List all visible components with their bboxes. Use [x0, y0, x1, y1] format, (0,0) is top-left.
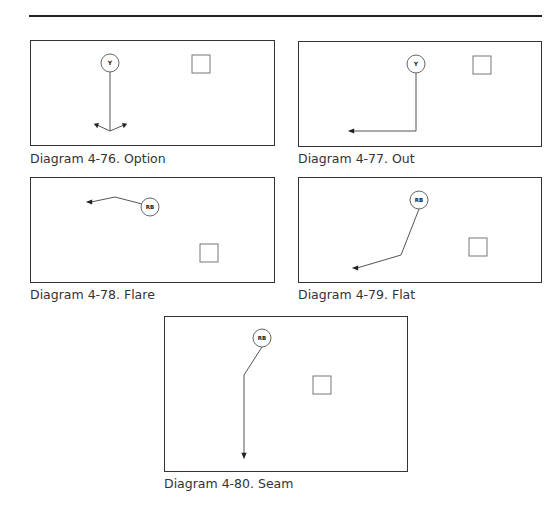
route-drawing: RB: [165, 317, 409, 473]
route-drawing: Y: [31, 41, 276, 147]
diagram-flat: RB: [298, 177, 542, 283]
route-branch-line: [97, 125, 110, 131]
page-top-rule: [29, 15, 542, 17]
route-line: [357, 209, 419, 268]
diagram-caption: Diagram 4-77. Out: [298, 151, 415, 166]
player-marker: RB: [141, 198, 159, 216]
diagram-caption: Diagram 4-79. Flat: [298, 287, 415, 302]
route-branch-line: [110, 125, 124, 131]
defender-square-icon: [200, 244, 218, 262]
player-label: Y: [107, 59, 113, 66]
diagram-caption: Diagram 4-80. Seam: [164, 476, 293, 491]
route-line: [244, 347, 262, 453]
diagram-caption: Diagram 4-76. Option: [30, 151, 166, 166]
defender-square-icon: [192, 55, 210, 73]
route-arrowhead-icon: [86, 199, 92, 204]
route-arrowhead-icon: [348, 128, 354, 133]
player-marker: Y: [101, 54, 119, 72]
defender-square-icon: [469, 238, 487, 256]
defender-square-icon: [473, 56, 491, 74]
defender-square-icon: [313, 376, 331, 394]
diagram-option: Y: [30, 40, 275, 146]
diagram-out: Y: [298, 41, 542, 147]
player-label: RB: [258, 335, 266, 341]
route-line: [353, 73, 416, 131]
route-drawing: RB: [299, 178, 543, 284]
diagram-seam: RB: [164, 316, 408, 472]
player-marker: Y: [407, 55, 425, 73]
player-marker: RB: [410, 191, 428, 209]
player-marker: RB: [253, 329, 271, 347]
route-arrowhead-icon: [241, 453, 246, 459]
route-drawing: RB: [31, 178, 276, 284]
player-label: RB: [415, 197, 423, 203]
route-line: [91, 197, 142, 204]
diagram-caption: Diagram 4-78. Flare: [30, 287, 155, 302]
route-arrowhead-icon: [352, 265, 358, 270]
diagram-flare: RB: [30, 177, 275, 283]
route-drawing: Y: [299, 42, 543, 148]
player-label: RB: [146, 204, 154, 210]
player-label: Y: [413, 60, 419, 67]
